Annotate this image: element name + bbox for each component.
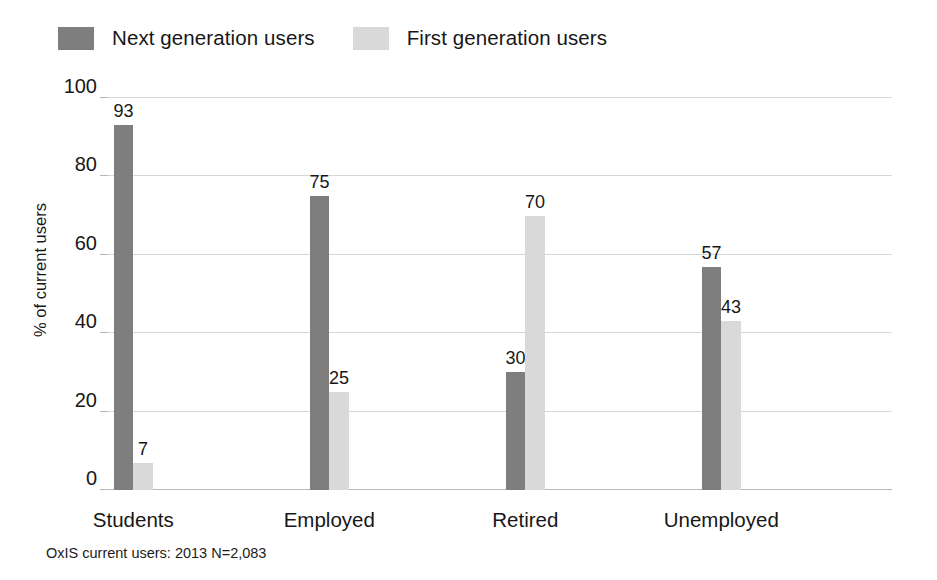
- bar-value-label: 25: [329, 368, 349, 389]
- bar-employed-first-generation: 25: [329, 392, 348, 490]
- bar-value-label: 93: [114, 101, 134, 122]
- bar-value-label: 43: [721, 297, 741, 318]
- y-axis-tick-label: 80: [75, 153, 97, 176]
- bar-unemployed-first-generation: 43: [721, 321, 740, 490]
- legend-entry-first-generation-users: First generation users: [353, 26, 607, 50]
- legend-label-next-generation-users: Next generation users: [112, 26, 315, 50]
- y-axis-tick-label: 60: [75, 231, 97, 254]
- chart-footnote: OxIS current users: 2013 N=2,083: [46, 545, 266, 561]
- x-axis-category-label: Students: [93, 508, 174, 532]
- legend-entry-next-generation-users: Next generation users: [58, 26, 315, 50]
- y-axis-tick-mark: [100, 411, 108, 412]
- bar-value-label: 75: [310, 172, 330, 193]
- bar-unemployed-next-generation: 57: [702, 267, 721, 490]
- y-axis-tick-label: 0: [86, 467, 97, 490]
- bar-value-label: 30: [506, 348, 526, 369]
- legend-swatch-first-generation-users: [353, 27, 389, 50]
- y-axis-tick-label: 20: [75, 388, 97, 411]
- bar-group: 937Students: [108, 98, 304, 490]
- bar-group: 7525Employed: [304, 98, 500, 490]
- bar-value-label: 70: [525, 192, 545, 213]
- x-axis-category-label: Unemployed: [664, 508, 779, 532]
- bar-students-first-generation: 7: [133, 463, 152, 490]
- y-axis-tick-label: 100: [64, 75, 97, 98]
- y-axis-tick-mark: [100, 175, 108, 176]
- bar-group: 5743Unemployed: [696, 98, 892, 490]
- legend-swatch-next-generation-users: [58, 27, 94, 50]
- legend-label-first-generation-users: First generation users: [407, 26, 607, 50]
- y-axis-tick-mark: [100, 332, 108, 333]
- plot-area: 020406080100937Students7525Employed3070R…: [108, 98, 892, 490]
- bar-retired-next-generation: 30: [506, 372, 525, 490]
- bar-employed-next-generation: 75: [310, 196, 329, 490]
- x-axis-category-label: Retired: [492, 508, 558, 532]
- bar-chart-figure: Next generation users First generation u…: [0, 0, 937, 580]
- y-axis-tick-label: 40: [75, 310, 97, 333]
- y-axis-tick-mark: [100, 489, 108, 490]
- bar-value-label: 57: [702, 243, 722, 264]
- bar-group: 3070Retired: [500, 98, 696, 490]
- bar-students-next-generation: 93: [114, 125, 133, 490]
- y-axis-tick-mark: [100, 97, 108, 98]
- bar-retired-first-generation: 70: [525, 216, 544, 490]
- chart-legend: Next generation users First generation u…: [58, 26, 607, 50]
- bar-value-label: 7: [138, 439, 148, 460]
- x-axis-category-label: Employed: [284, 508, 375, 532]
- y-axis-tick-mark: [100, 254, 108, 255]
- y-axis-title: % of current users: [28, 60, 52, 480]
